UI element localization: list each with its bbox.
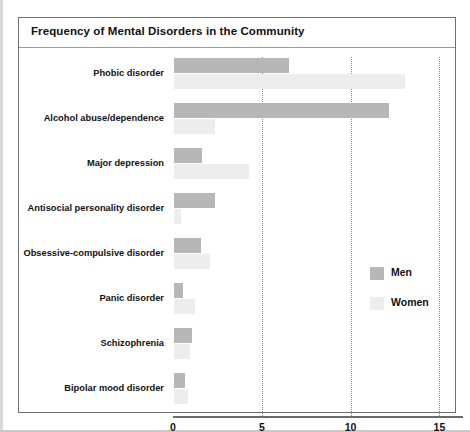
category-label: Antisocial personality disorder (28, 203, 164, 213)
chart-figure-frame: Frequency of Mental Disorders in the Com… (18, 17, 456, 413)
bar-women (174, 209, 181, 224)
bar-group: Major depression (173, 147, 445, 187)
bar-men (174, 148, 202, 163)
bar-women (174, 254, 210, 269)
category-label: Phobic disorder (93, 68, 164, 78)
bar-men (174, 373, 185, 388)
bar-group: Phobic disorder (173, 57, 445, 97)
bar-men (174, 283, 183, 298)
bar-group: Antisocial personality disorder (173, 192, 445, 232)
legend-swatch-icon (370, 297, 384, 310)
chart-legend: MenWomen (370, 266, 456, 316)
bar-men (174, 193, 215, 208)
legend-swatch-icon (370, 267, 384, 280)
category-label: Major depression (87, 158, 164, 168)
bar-group: Alcohol abuse/dependence (173, 102, 445, 142)
bar-women (174, 119, 215, 134)
bar-men (174, 103, 389, 118)
bar-women (174, 344, 190, 359)
x-tick-label-15: 15 (434, 421, 446, 432)
category-label: Panic disorder (99, 293, 164, 303)
legend-label: Men (391, 266, 412, 278)
bar-group: Schizophrenia (173, 327, 445, 367)
page-edge-left (0, 0, 3, 432)
bar-group: Bipolar mood disorder (173, 372, 445, 412)
bar-men (174, 58, 289, 73)
bar-men (174, 238, 201, 253)
x-tick-label-5: 5 (259, 421, 265, 432)
bar-women (174, 74, 405, 89)
bar-men (174, 328, 192, 343)
legend-label: Women (391, 296, 429, 308)
plot-area: Phobic disorderAlcohol abuse/dependenceM… (173, 40, 445, 398)
x-tick-label-0: 0 (170, 421, 176, 432)
category-label: Bipolar mood disorder (64, 383, 164, 393)
bar-women (174, 299, 195, 314)
category-label: Schizophrenia (100, 338, 164, 348)
x-tick-label-10: 10 (345, 421, 357, 432)
chart-title: Frequency of Mental Disorders in the Com… (31, 25, 305, 37)
x-axis-line (173, 416, 463, 418)
bar-women (174, 164, 249, 179)
category-label: Alcohol abuse/dependence (44, 113, 164, 123)
bar-women (174, 389, 188, 404)
category-label: Obsessive-compulsive disorder (23, 248, 164, 258)
